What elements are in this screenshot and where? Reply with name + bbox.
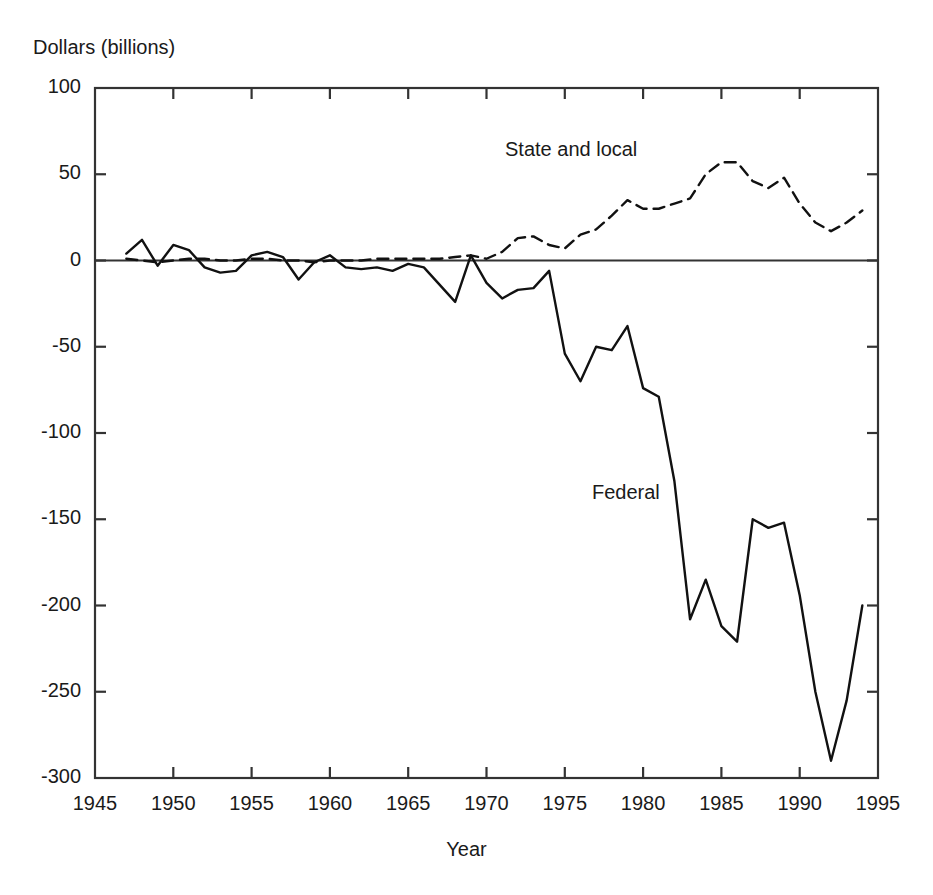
y-tick-label: -50 [0, 334, 81, 357]
y-tick-label: 100 [0, 75, 81, 98]
x-tick-label: 1985 [681, 792, 761, 815]
x-tick-label: 1955 [212, 792, 292, 815]
line-chart: Dollars (billions) Year 100500-50-100-15… [0, 0, 933, 895]
x-tick-label: 1970 [447, 792, 527, 815]
x-tick-label: 1995 [838, 792, 918, 815]
y-tick-label: -250 [0, 679, 81, 702]
series-line-federal [126, 240, 862, 761]
x-tick-label: 1965 [368, 792, 448, 815]
x-tick-label: 1975 [525, 792, 605, 815]
series-label-federal: Federal [592, 481, 660, 504]
x-tick-label: 1945 [55, 792, 135, 815]
y-tick-label: -100 [0, 420, 81, 443]
x-tick-label: 1990 [760, 792, 840, 815]
y-tick-label: -300 [0, 765, 81, 788]
x-tick-label: 1950 [133, 792, 213, 815]
tick-marks [95, 88, 878, 778]
series-label-state-and-local: State and local [505, 138, 637, 161]
figure-root: Dollars (billions) Year 100500-50-100-15… [0, 0, 933, 895]
x-tick-label: 1960 [290, 792, 370, 815]
caption-strip [0, 862, 933, 895]
x-tick-label: 1980 [603, 792, 683, 815]
data-series-group [126, 162, 862, 761]
y-tick-label: 50 [0, 161, 81, 184]
series-line-state-and-local [126, 162, 862, 262]
plot-frame [95, 88, 878, 778]
y-tick-label: -150 [0, 506, 81, 529]
y-tick-label: 0 [0, 248, 81, 271]
plot-canvas [0, 0, 933, 895]
plot-frame-rect [95, 88, 878, 778]
y-tick-label: -200 [0, 593, 81, 616]
